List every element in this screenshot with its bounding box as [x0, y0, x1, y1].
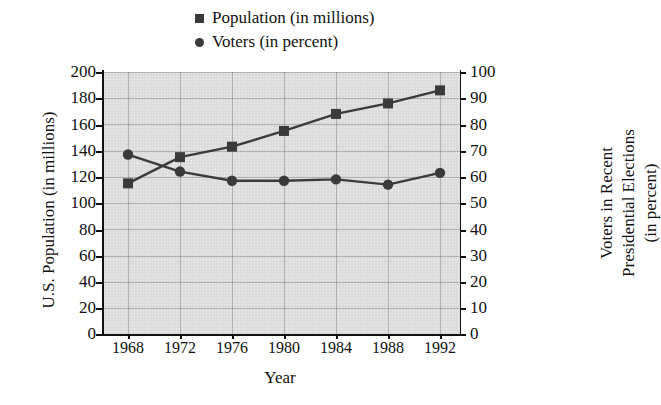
data-point-population-1992: [435, 85, 445, 95]
data-point-population-1972: [175, 152, 185, 162]
data-point-population-1988: [383, 98, 393, 108]
y-axis-right-title-line-3: (in percent): [641, 88, 661, 318]
data-point-voters-1992: [435, 168, 445, 178]
data-point-population-1980: [279, 126, 289, 136]
data-point-voters-1968: [123, 149, 133, 159]
y-axis-right-title-line-2: Presidential Elections: [619, 88, 639, 318]
data-point-population-1976: [227, 142, 237, 152]
data-point-voters-1976: [227, 176, 237, 186]
data-point-voters-1988: [383, 179, 393, 189]
data-point-voters-1984: [331, 174, 341, 184]
x-axis-title: Year: [0, 368, 560, 388]
y-axis-right-title-line-1: Voters in Recent: [597, 88, 617, 318]
data-point-population-1984: [331, 109, 341, 119]
y-axis-left-title: U.S. Population (in millions): [39, 85, 59, 335]
data-point-population-1968: [123, 178, 133, 188]
data-point-voters-1980: [279, 176, 289, 186]
data-point-voters-1972: [175, 166, 185, 176]
